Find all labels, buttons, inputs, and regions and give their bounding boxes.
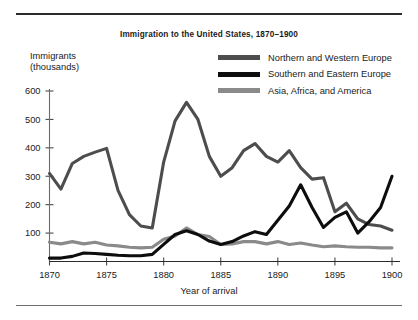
- y-tick-label: 200: [25, 200, 41, 210]
- x-tick-label: 1885: [210, 270, 231, 280]
- y-tick-label: 400: [25, 143, 41, 153]
- chart-series-line: [50, 102, 393, 230]
- x-axis-label: Year of arrival: [0, 286, 418, 296]
- y-tick-label: 500: [25, 115, 41, 125]
- chart-figure: Immigration to the United States, 1870–1…: [0, 0, 418, 320]
- x-tick-label: 1880: [153, 270, 174, 280]
- y-tick-label: 300: [25, 172, 41, 182]
- y-tick-label: 100: [25, 228, 41, 238]
- x-tick-label: 1875: [96, 270, 117, 280]
- chart-series-group: [50, 102, 393, 258]
- x-tick-label: 1870: [39, 270, 60, 280]
- x-tick-label: 1895: [325, 270, 346, 280]
- chart-plot-area: 100200300400500600 187018751880188518901…: [0, 0, 418, 320]
- x-tick-label: 1900: [382, 270, 403, 280]
- x-tick-label: 1890: [267, 270, 288, 280]
- y-tick-label: 600: [25, 86, 41, 96]
- x-axis-ticks: 1870187518801885189018951900: [39, 258, 402, 280]
- bottom-divider-rule: [16, 305, 402, 306]
